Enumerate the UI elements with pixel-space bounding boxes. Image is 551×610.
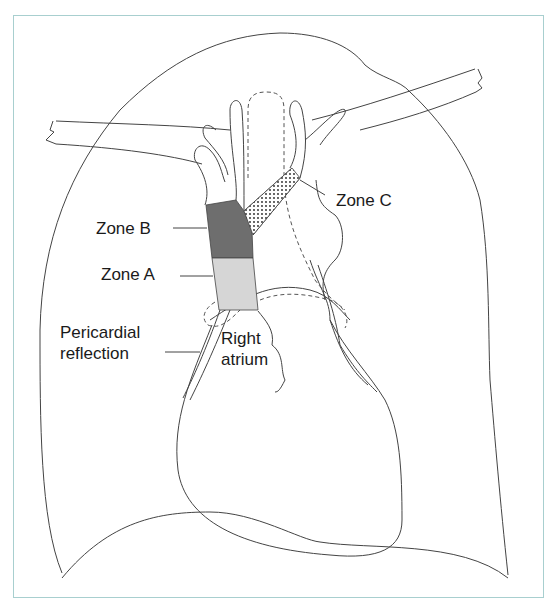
diaphragm-outline	[62, 512, 508, 578]
right-atrium-label-line1: Right	[221, 328, 268, 349]
zone-a-region	[212, 258, 258, 310]
right-atrium-label-line2: atrium	[221, 349, 268, 370]
left-subclavian	[46, 121, 202, 164]
right-atrium-label: Right atrium	[221, 328, 268, 370]
zone-c-label: Zone C	[336, 190, 392, 211]
right-subclavian	[360, 69, 482, 130]
thorax-outline	[40, 33, 508, 575]
svc	[194, 146, 225, 205]
trachea-dashed	[248, 92, 284, 180]
pericardial-label-line1: Pericardial	[60, 322, 140, 343]
pericardial-reflection-label: Pericardial reflection	[60, 322, 140, 364]
zone-b-label: Zone B	[96, 218, 151, 239]
chest-diagram	[0, 0, 551, 610]
zone-c-leader	[300, 180, 325, 195]
zone-a-label: Zone A	[101, 264, 155, 285]
pericardial-label-line2: reflection	[60, 343, 140, 364]
